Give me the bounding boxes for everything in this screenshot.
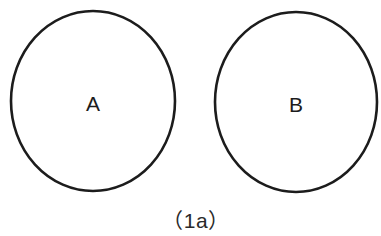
figure-canvas: A B （1a） — [0, 0, 381, 236]
circle-a-label: A — [86, 92, 100, 115]
figure-background — [0, 0, 381, 236]
figure-container: A B （1a） — [0, 0, 381, 236]
figure-caption: （1a） — [162, 209, 229, 232]
circle-b-label: B — [289, 93, 303, 116]
